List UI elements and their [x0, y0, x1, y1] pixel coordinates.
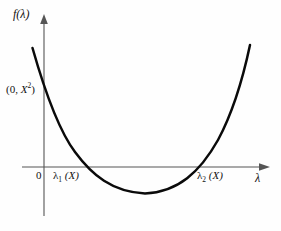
- origin-label: 0: [36, 170, 42, 181]
- root-2-subscript: 2: [202, 175, 206, 184]
- y-intercept-annotation: (0, X2): [6, 84, 35, 95]
- root-1-argument: (X): [65, 169, 79, 181]
- figure-container: f(λ) (0, X2) 0 λ1 (X) λ2 (X) λ: [0, 0, 281, 231]
- y-axis-label: f(λ): [13, 8, 30, 20]
- x-axis-label: λ: [255, 172, 260, 184]
- root-2-argument: (X): [209, 169, 223, 181]
- root-1-label: λ1 (X): [53, 170, 79, 181]
- y-axis-arrow-icon: [40, 14, 48, 24]
- y-intercept-prefix: (0,: [6, 83, 21, 95]
- root-2-label: λ2 (X): [197, 170, 223, 181]
- x-axis-arrow-icon: [259, 163, 270, 170]
- y-axis: [40, 14, 48, 216]
- plot-canvas: [0, 0, 281, 231]
- y-intercept-suffix: ): [31, 83, 35, 95]
- root-1-subscript: 1: [58, 175, 62, 184]
